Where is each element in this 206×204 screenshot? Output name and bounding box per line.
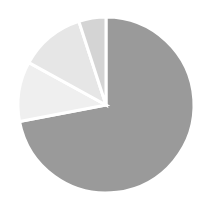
pie-chart-canvas xyxy=(0,0,206,204)
pie-chart xyxy=(0,0,206,204)
